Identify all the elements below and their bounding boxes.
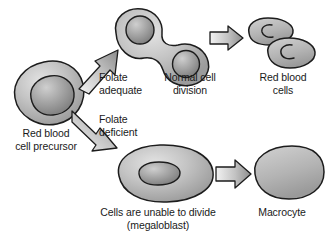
label-folate-adequate: Folate adequate <box>99 71 142 96</box>
nucleus <box>31 76 74 115</box>
node-megaloblast <box>118 145 213 202</box>
label-normal-division: Normal cell division <box>164 71 215 96</box>
label-precursor: Red blood cell precursor <box>15 127 77 152</box>
label-folate-deficient: Folate deficient <box>99 113 137 138</box>
arrow-to-macrocyte <box>216 160 251 188</box>
label-megaloblast: Cells are unable to divide (megaloblast) <box>100 206 215 231</box>
nucleus <box>126 16 154 44</box>
label-red-blood-cells: Red blood cells <box>260 71 307 96</box>
label-macrocyte: Macrocyte <box>258 206 306 219</box>
diagram-canvas <box>0 0 325 233</box>
node-macrocyte <box>255 146 324 199</box>
arrow-to-red-blood-cells <box>210 26 243 50</box>
cell-division-diagram: Red blood cell precursor Folate adequate… <box>0 0 325 233</box>
nucleus <box>139 162 180 185</box>
node-red-blood-cells <box>249 18 315 68</box>
